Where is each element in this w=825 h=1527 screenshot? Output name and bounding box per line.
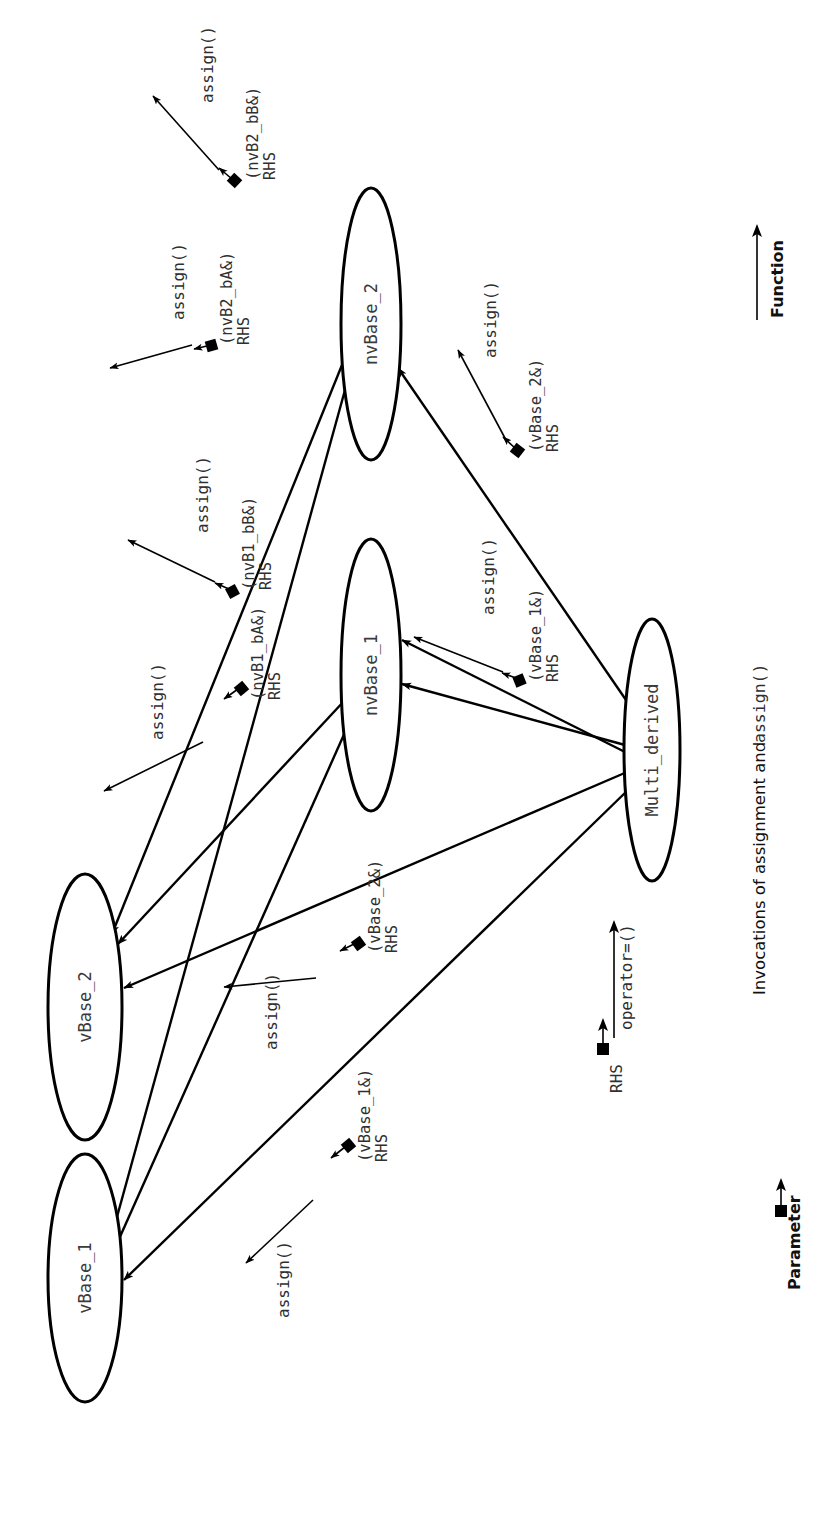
callout-parameter-arrow bbox=[224, 689, 238, 699]
callout-label-param: (vBase_1&) bbox=[356, 1069, 374, 1162]
callout-label-param: (nvB1_bA&) bbox=[249, 607, 267, 700]
callout-label-param: (nvB1_bB&) bbox=[240, 497, 258, 590]
parameter-square-icon bbox=[351, 936, 366, 951]
callout-function-arrow bbox=[153, 96, 219, 170]
callout-vbase2-nv: assign() (vBase_2&) RHS bbox=[458, 281, 562, 458]
parameter-square-icon bbox=[234, 681, 249, 696]
figure-caption: Invocations of assignment and assign() bbox=[750, 664, 769, 995]
caption-text-plain: Invocations of assignment and bbox=[750, 742, 769, 995]
callout-function-arrow bbox=[110, 345, 192, 368]
node-vbase-1[interactable]: vBase_1 bbox=[48, 1154, 122, 1402]
callout-nvb1-ba: assign() (nvB1_bA&) RHS bbox=[104, 607, 284, 791]
callout-label-function: assign() bbox=[148, 663, 167, 740]
callout-label-rhs: RHS bbox=[544, 654, 562, 682]
callout-label-function: assign() bbox=[193, 456, 212, 533]
edge-multiderived-nvbase1-b bbox=[402, 640, 625, 752]
node-nvbase-2[interactable]: nvBase_2 bbox=[341, 188, 401, 460]
callout-function-arrow bbox=[414, 637, 503, 672]
entry-label-rhs: RHS bbox=[607, 1064, 626, 1093]
edge-nvbase2-vbase2 bbox=[112, 360, 344, 934]
legend-function: Function bbox=[757, 226, 787, 320]
callout-parameter-arrow bbox=[331, 1147, 345, 1158]
node-nvbase-1[interactable]: nvBase_1 bbox=[341, 539, 401, 811]
caption-text-mono: assign() bbox=[750, 664, 769, 743]
node-multi-derived[interactable]: Multi_derived bbox=[624, 619, 680, 881]
parameter-square-icon bbox=[227, 173, 243, 189]
callout-nvb1-bb: assign() (nvB1_bB&) RHS bbox=[128, 456, 275, 599]
node-vbase-2[interactable]: vBase_2 bbox=[48, 874, 122, 1140]
legend-parameter: Parameter bbox=[775, 1180, 804, 1290]
callout-label-param: (vBase_2&) bbox=[366, 860, 384, 953]
callout-vbase1-nv: assign() (vBase_1&) RHS bbox=[414, 538, 562, 688]
callout-label-param: (nvB2_bA&) bbox=[218, 252, 236, 345]
callout-label-param: (nvB2_bB&) bbox=[244, 87, 262, 180]
node-label-nvbase-1: nvBase_1 bbox=[361, 634, 381, 716]
node-label-vbase-2: vBase_2 bbox=[75, 971, 95, 1043]
callout-parameter-arrow bbox=[215, 583, 229, 589]
node-label-multi-derived: Multi_derived bbox=[642, 683, 662, 816]
callout-label-rhs: RHS bbox=[266, 672, 284, 700]
callout-label-rhs: RHS bbox=[544, 424, 562, 452]
figure-canvas: vBase_1 vBase_2 nvBase_1 nvBase_2 Multi_… bbox=[0, 0, 825, 1527]
callout-label-rhs: RHS bbox=[261, 152, 279, 180]
callout-nvb2-ba: assign() (nvB2_bA&) RHS bbox=[110, 243, 253, 368]
legend-function-label: Function bbox=[768, 240, 787, 318]
callout-label-rhs: RHS bbox=[257, 562, 275, 590]
callout-nvb2-bb: assign() (nvB2_bB&) RHS bbox=[153, 26, 279, 188]
node-group: vBase_1 vBase_2 nvBase_1 nvBase_2 Multi_… bbox=[48, 188, 680, 1402]
parameter-square-icon bbox=[597, 1043, 609, 1055]
callout-vbase1-v: assign() (vBase_1&) RHS bbox=[246, 1069, 391, 1318]
callout-function-arrow bbox=[128, 540, 215, 582]
callout-label-param: (vBase_1&) bbox=[527, 589, 545, 682]
entry-operator-assign: operator=() RHS bbox=[597, 922, 636, 1093]
parameter-square-icon bbox=[341, 1138, 356, 1153]
callout-parameter-arrow bbox=[219, 168, 232, 179]
edge-multiderived-nvbase2 bbox=[398, 368, 626, 700]
callout-parameter-arrow bbox=[503, 437, 515, 448]
callout-label-rhs: RHS bbox=[373, 1134, 391, 1162]
callout-parameter-arrow bbox=[340, 944, 354, 951]
callout-label-function: assign() bbox=[479, 538, 498, 615]
callout-label-rhs: RHS bbox=[235, 317, 253, 345]
callout-label-function: assign() bbox=[481, 281, 500, 358]
call-graph-svg: vBase_1 vBase_2 nvBase_1 nvBase_2 Multi_… bbox=[0, 0, 825, 1527]
legend-parameter-label: Parameter bbox=[785, 1195, 804, 1290]
callout-vbase2-v: assign() (vBase_2&) RHS bbox=[224, 860, 401, 1050]
parameter-square-icon bbox=[225, 584, 240, 599]
callout-function-arrow bbox=[458, 350, 506, 440]
parameter-square-icon bbox=[512, 673, 526, 687]
callout-label-function: assign() bbox=[169, 243, 188, 320]
callout-label-function: assign() bbox=[262, 973, 281, 1050]
callout-parameter-arrow bbox=[194, 346, 207, 349]
node-label-nvbase-2: nvBase_2 bbox=[361, 283, 381, 365]
node-label-vbase-1: vBase_1 bbox=[75, 1242, 95, 1314]
callout-parameter-arrow bbox=[502, 673, 516, 678]
callout-label-param: (vBase_2&) bbox=[527, 359, 545, 452]
callout-label-function: assign() bbox=[198, 26, 217, 103]
callout-label-function: assign() bbox=[274, 1241, 293, 1318]
callout-label-rhs: RHS bbox=[383, 925, 401, 953]
callout-function-arrow bbox=[104, 742, 203, 791]
entry-label-operator: operator=() bbox=[617, 924, 636, 1030]
